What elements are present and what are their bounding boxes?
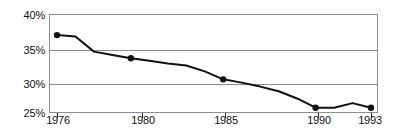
data-point-marker xyxy=(312,105,318,111)
data-point-marker xyxy=(368,105,374,111)
data-point-marker xyxy=(220,76,226,82)
data-point-markers xyxy=(54,32,374,111)
line-chart: 40% 35% 30% 25% 1976 1980 1985 1990 1993 xyxy=(0,0,394,128)
series-line-1 xyxy=(57,35,371,108)
data-point-marker xyxy=(128,55,134,61)
data-series-layer xyxy=(0,0,394,128)
data-point-marker xyxy=(54,32,60,38)
